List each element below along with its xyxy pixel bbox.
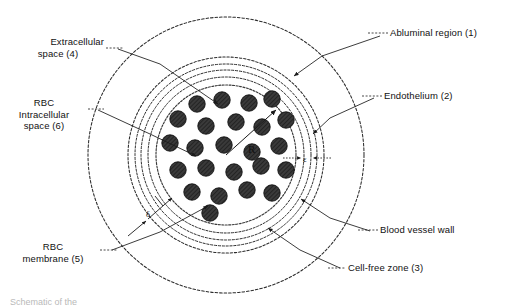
rbc-cell	[271, 138, 287, 154]
rbc-cell	[184, 184, 200, 200]
label-extracellular-space-line2: space (4)	[12, 48, 104, 60]
label-rbc-intracellular-line3: space (6)	[2, 120, 86, 132]
rbc-cell	[216, 137, 232, 153]
rbc-cell	[211, 188, 227, 204]
label-cell-free-zone: Cell-free zone (3)	[348, 262, 423, 274]
label-blood-vessel-wall: Blood vessel wall	[380, 224, 455, 236]
leader-lines	[88, 33, 388, 268]
cell-free-leader	[268, 228, 340, 268]
label-rbc-intracellular-line1: RBC	[2, 97, 86, 109]
label-rbc-membrane: RBC membrane (5)	[8, 241, 98, 264]
rbc-cell	[198, 118, 214, 134]
label-abluminal-region-text: Abluminal region (1)	[390, 27, 477, 38]
label-endothelium: Endothelium (2)	[384, 90, 453, 102]
rbc-cell	[253, 158, 269, 174]
rbc-cell	[278, 112, 294, 128]
label-blood-vessel-wall-text: Blood vessel wall	[380, 224, 455, 235]
rbc-cell	[264, 185, 280, 201]
rbc-cell	[170, 111, 186, 127]
rbc-cell	[202, 205, 218, 221]
rbc-cell	[214, 92, 230, 108]
delta-symbol: δ	[146, 209, 150, 219]
endothelium-leader	[313, 98, 374, 134]
figure-canvas: R ε δ Abluminal region (1) Endothelium (…	[0, 0, 509, 306]
figure-caption-partial: Schematic of the	[10, 297, 240, 306]
rbc-cell	[189, 96, 205, 112]
label-endothelium-text: Endothelium (2)	[384, 90, 453, 101]
delta-lower-arrow	[128, 221, 146, 236]
label-rbc-intracellular-line2: Intracellular	[2, 109, 86, 121]
abluminal-leader	[294, 36, 380, 76]
rbc-cell	[278, 162, 294, 178]
delta-upper-arrow	[148, 198, 172, 219]
rbc-cell	[228, 114, 244, 130]
rbc-cell	[254, 119, 270, 135]
label-cell-free-zone-text: Cell-free zone (3)	[348, 262, 423, 273]
epsilon-symbol: ε	[303, 154, 307, 164]
label-rbc-intracellular-space: RBC Intracellular space (6)	[2, 97, 86, 132]
rbc-cell	[241, 95, 257, 111]
label-extracellular-space-line1: Extracellular	[12, 36, 104, 48]
rbc-cell	[239, 182, 255, 198]
rbc-cell	[162, 135, 178, 151]
label-extracellular-space: Extracellular space (4)	[12, 36, 104, 59]
rbc-cell	[226, 164, 242, 180]
rbc-membrane-leader	[112, 206, 208, 250]
rbc-cell	[198, 160, 214, 176]
radius-symbol-R: R	[248, 143, 256, 155]
rbc-cell	[264, 91, 280, 107]
rbc-cell	[170, 162, 186, 178]
rbc-cell	[187, 140, 203, 156]
label-rbc-membrane-line2: membrane (5)	[8, 253, 98, 265]
rbc-cell-group	[162, 91, 294, 221]
delta-tick	[155, 196, 163, 206]
label-abluminal-region: Abluminal region (1)	[390, 27, 477, 39]
label-rbc-membrane-line1: RBC	[8, 241, 98, 253]
